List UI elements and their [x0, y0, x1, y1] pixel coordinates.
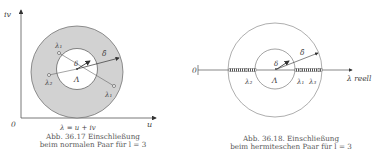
outer-radius-label: δ̂ [102, 49, 107, 58]
point-lambda1-lower [113, 85, 116, 88]
interval-left [229, 69, 256, 72]
outer-radius-label: δ̂ [300, 48, 305, 57]
outer-radius-arrow [277, 53, 318, 69]
label-lambda1: λ₁ [296, 78, 304, 86]
figure-left-diagram: iv u 0 λ₁ λ₂ λ₁ Λ δ δ̂ λ = u + iv [4, 10, 156, 132]
center-label: Λ [73, 75, 80, 84]
point-lambda3 [318, 69, 321, 72]
label-lambda2: λ₂ [44, 79, 52, 87]
complex-variable-label: λ = u + iv [59, 124, 96, 132]
caption-right: Abb. 36.18. Einschließung beim hermitesc… [226, 135, 356, 152]
x-axis-label: u [147, 120, 152, 129]
label-lambda1-lower: λ₁ [104, 91, 112, 99]
point-lambda1-upper [58, 52, 61, 55]
caption-right-line2: beim hermiteschen Paar für l = 3 [226, 143, 356, 151]
center-point [76, 68, 78, 70]
origin-label: 0 [192, 66, 197, 75]
center-label: Λ [271, 76, 278, 85]
inner-radius-label: δ [74, 60, 78, 68]
point-lambda1 [300, 69, 303, 72]
figure-right-diagram: 0 λ reell λ₂ λ₁ λ₃ Λ δ δ̂ [192, 23, 372, 117]
caption-left: Abb. 36.17 Einschließung beim normalen P… [38, 133, 148, 150]
point-lambda2 [245, 69, 248, 72]
y-axis-label: iv [4, 10, 12, 19]
point-lambda2 [48, 74, 51, 77]
label-lambda3: λ₃ [308, 78, 316, 86]
label-lambda1-upper: λ₁ [54, 42, 62, 50]
real-axis-label: λ reell [346, 74, 372, 83]
caption-left-line2: beim normalen Paar für l = 3 [38, 141, 148, 149]
label-lambda2: λ₂ [244, 78, 252, 86]
origin-label: 0 [11, 120, 16, 129]
center-point [275, 68, 277, 70]
inner-radius-label: δ [274, 60, 278, 68]
